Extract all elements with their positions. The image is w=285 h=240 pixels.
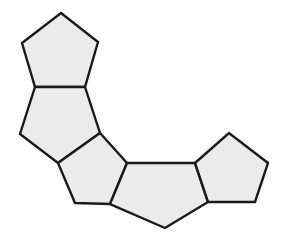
pentagon-chain-figure xyxy=(0,0,285,240)
